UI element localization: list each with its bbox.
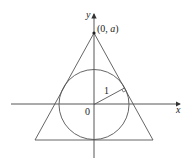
- apex-point: [92, 31, 95, 34]
- origin-label: 0: [85, 106, 90, 117]
- x-axis-label: x: [175, 104, 181, 115]
- radius-line: [94, 88, 125, 105]
- apex-label: (0, a): [97, 23, 119, 35]
- inscribed-circle-diagram: y (0, a) 1 0 x: [0, 0, 192, 163]
- radius-label: 1: [104, 85, 109, 96]
- y-axis-label: y: [85, 9, 91, 20]
